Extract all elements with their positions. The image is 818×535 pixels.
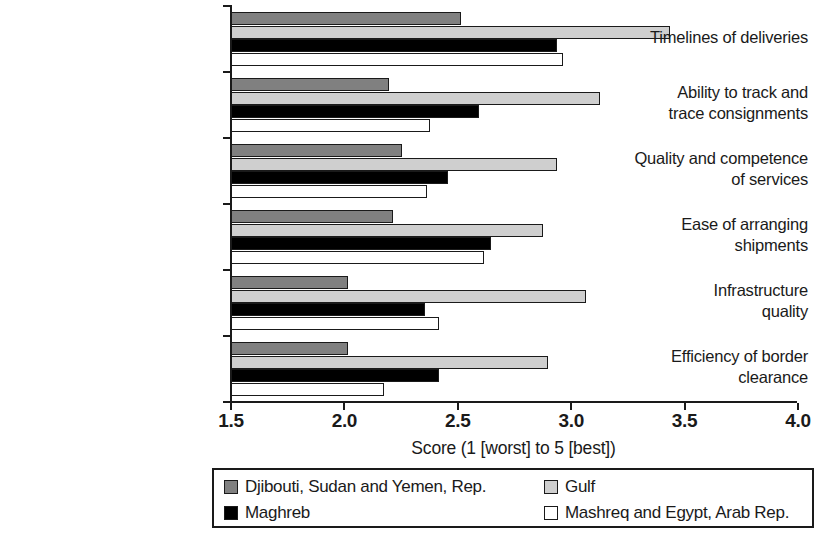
legend-label: Mashreq and Egypt, Arab Rep. (565, 503, 789, 523)
category-label-line: Efficiency of border (590, 346, 808, 367)
legend-item[interactable]: Maghreb (224, 500, 310, 526)
x-tick (230, 403, 232, 410)
category-label-line: clearance (590, 367, 808, 388)
bar (230, 119, 430, 132)
x-tick (457, 403, 459, 410)
x-tick-label: 2.5 (428, 410, 488, 432)
x-tick-label: 4.0 (768, 410, 818, 432)
category-label-line: of services (590, 169, 808, 190)
legend-label: Maghreb (245, 503, 310, 523)
category-label-line: Quality and competence (590, 148, 808, 169)
bar (230, 237, 491, 250)
legend-label: Djibouti, Sudan and Yemen, Rep. (245, 477, 486, 497)
category-label-line: Ease of arranging (590, 214, 808, 235)
bar (230, 369, 439, 382)
bar (230, 185, 427, 198)
legend-item[interactable]: Gulf (544, 474, 595, 500)
x-tick (797, 403, 799, 410)
horizontal-bar-chart: 1.52.02.53.03.54.0 Score (1 [worst] to 5… (0, 0, 818, 535)
x-axis-title: Score (1 [worst] to 5 [best]) (230, 438, 797, 459)
legend-item[interactable]: Mashreq and Egypt, Arab Rep. (544, 500, 789, 526)
x-tick-label: 1.5 (201, 410, 261, 432)
bar (230, 383, 384, 396)
bar (230, 342, 348, 355)
category-label: Quality and competenceof services (590, 148, 818, 190)
bar (230, 158, 557, 171)
plot-area (230, 5, 797, 400)
y-tick (223, 5, 230, 7)
legend-label: Gulf (565, 477, 595, 497)
chart-legend: Djibouti, Sudan and Yemen, Rep.GulfMaghr… (212, 468, 814, 528)
bar (230, 290, 586, 303)
bar (230, 53, 563, 66)
bar (230, 356, 548, 369)
bar (230, 144, 402, 157)
category-label: Efficiency of borderclearance (590, 346, 818, 388)
category-label-line: trace consignments (590, 103, 808, 124)
bar (230, 303, 425, 316)
category-label-line: shipments (590, 235, 808, 256)
category-label: Ability to track andtrace consignments (590, 82, 818, 124)
y-tick (223, 203, 230, 205)
category-label-line: quality (590, 301, 808, 322)
legend-item[interactable]: Djibouti, Sudan and Yemen, Rep. (224, 474, 486, 500)
y-tick (223, 401, 230, 403)
bar (230, 276, 348, 289)
x-tick (570, 403, 572, 410)
legend-swatch-icon (544, 480, 558, 494)
x-axis-line (230, 401, 797, 403)
y-tick (223, 335, 230, 337)
y-tick (223, 269, 230, 271)
y-axis-line (230, 5, 232, 401)
category-label-line: Infrastructure (590, 280, 808, 301)
x-tick (343, 403, 345, 410)
bar (230, 251, 484, 264)
category-label: Ease of arrangingshipments (590, 214, 818, 256)
legend-swatch-icon (224, 480, 238, 494)
legend-swatch-icon (544, 506, 558, 520)
x-tick-label: 3.0 (541, 410, 601, 432)
y-tick (223, 71, 230, 73)
bar (230, 210, 393, 223)
bar (230, 105, 479, 118)
y-tick (223, 137, 230, 139)
x-tick-label: 2.0 (314, 410, 374, 432)
bar (230, 224, 543, 237)
bar (230, 317, 439, 330)
bar (230, 92, 600, 105)
legend-swatch-icon (224, 506, 238, 520)
bar (230, 39, 557, 52)
x-tick (684, 403, 686, 410)
bar (230, 78, 389, 91)
category-label-line: Timelines of deliveries (590, 27, 808, 48)
x-tick-label: 3.5 (655, 410, 715, 432)
category-label-line: Ability to track and (590, 82, 808, 103)
category-label: Infrastructurequality (590, 280, 818, 322)
bar (230, 171, 448, 184)
bar (230, 12, 461, 25)
category-label: Timelines of deliveries (590, 27, 818, 48)
